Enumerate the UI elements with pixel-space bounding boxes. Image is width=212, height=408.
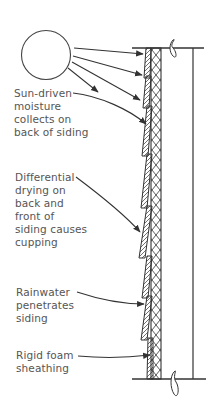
break-line-icon	[171, 371, 178, 396]
sun-icon	[22, 31, 71, 80]
siding-board	[141, 154, 152, 208]
siding-board	[143, 76, 151, 108]
leader-arrow-foam	[78, 355, 150, 357]
rigid-foam-sheathing	[151, 48, 161, 379]
siding-board	[139, 206, 152, 258]
leader-arrow-rainwater	[77, 292, 144, 304]
sun-ray-arrow	[74, 48, 143, 54]
sun-ray-arrow	[73, 56, 142, 75]
label-rainwater: Rainwater penetrates siding	[16, 286, 74, 325]
label-foam: Rigid foam sheathing	[16, 349, 74, 375]
label-differential: Differential drying on back and front of…	[15, 171, 87, 249]
siding-board	[144, 48, 151, 78]
siding-board	[147, 338, 153, 379]
siding-board	[141, 296, 152, 340]
label-sun-driven: Sun-driven moisture collects on back of …	[14, 87, 88, 139]
